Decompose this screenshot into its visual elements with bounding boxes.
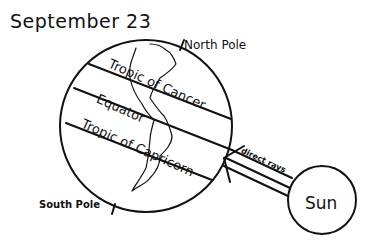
diagram-title: September 23 — [10, 12, 151, 31]
north-pole-label: North Pole — [184, 39, 246, 51]
sun-label: Sun — [305, 195, 337, 212]
ray-arrow-lower — [224, 158, 230, 182]
south-pole-label: South Pole — [39, 200, 100, 210]
